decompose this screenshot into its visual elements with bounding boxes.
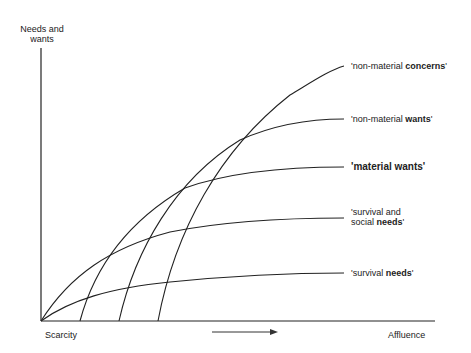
y-axis-label: Needs and wants	[4, 24, 80, 44]
label-non-material-concerns: 'non-material concerns'	[351, 61, 447, 71]
label-survival-and-social-needs: 'survival and social needs'	[351, 207, 404, 227]
label-material-wants: 'material wants'	[351, 162, 425, 172]
label-non-material-wants: 'non-material wants'	[351, 114, 432, 124]
label-line1: 'survival and	[351, 207, 404, 217]
curve-material-wants	[80, 167, 344, 321]
diagram-canvas	[0, 0, 471, 353]
curve-survival-and-social-needs	[41, 218, 344, 321]
label-survival-needs: 'survival needs'	[351, 268, 413, 278]
curve-survival-needs	[41, 273, 344, 321]
x-axis-right-label: Affluence	[388, 330, 425, 340]
x-axis-left-label: Scarcity	[45, 330, 77, 340]
y-axis-label-line2: wants	[4, 34, 80, 44]
y-axis-label-line1: Needs and	[4, 24, 80, 34]
curve-non-material-concerns	[158, 66, 344, 321]
curve-non-material-wants	[119, 119, 344, 321]
arrow-right-icon	[270, 329, 278, 335]
